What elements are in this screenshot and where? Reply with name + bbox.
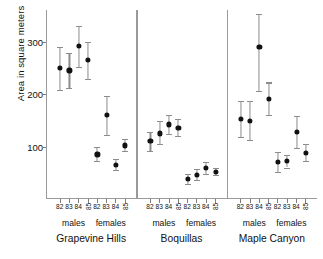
y-tick-label: 300 xyxy=(27,36,43,47)
error-bar-cap-lower xyxy=(256,91,262,92)
y-tick-mark xyxy=(42,147,46,148)
y-axis-title: Area in square meters xyxy=(15,0,26,134)
error-bar-cap-lower xyxy=(57,90,63,91)
error-bar-cap-upper xyxy=(294,116,300,117)
group-label-females: females xyxy=(276,218,306,228)
error-bar-cap-upper xyxy=(85,42,91,43)
data-point-with-error-bar xyxy=(305,10,306,199)
group-label-females: females xyxy=(186,218,216,228)
error-bar-cap-upper xyxy=(284,155,290,156)
error-bar-cap-lower xyxy=(94,161,100,162)
panel-label: Grapevine Hills xyxy=(56,233,126,244)
data-point-marker xyxy=(275,160,280,165)
x-tick-label: 83 xyxy=(65,203,72,210)
data-point-marker xyxy=(285,159,290,164)
data-point-with-error-bar xyxy=(287,10,288,199)
error-bar-cap-lower xyxy=(284,168,290,169)
data-point-with-error-bar xyxy=(178,10,179,199)
error-bar-cap-upper xyxy=(104,96,110,97)
error-bar-cap-lower xyxy=(194,180,200,181)
data-point-marker xyxy=(294,129,299,134)
error-bar-cap-lower xyxy=(238,137,244,138)
error-bar-cap-upper xyxy=(57,47,63,48)
data-point-with-error-bar xyxy=(60,10,61,199)
data-point-marker xyxy=(123,143,128,148)
x-tick-label: 83 xyxy=(156,203,163,210)
error-bar-cap-lower xyxy=(213,175,219,176)
x-tick-label: 85 xyxy=(121,203,128,210)
x-tick-label: 83 xyxy=(283,203,290,210)
y-tick-mark xyxy=(42,42,46,43)
error-bar-cap-lower xyxy=(66,88,72,89)
data-point-with-error-bar xyxy=(187,10,188,199)
error-bar-cap-lower xyxy=(175,136,181,137)
error-bar-cap-lower xyxy=(247,140,253,141)
data-point-marker xyxy=(76,43,81,48)
x-tick-label: 82 xyxy=(274,203,281,210)
error-bar-cap-lower xyxy=(294,148,300,149)
data-point-marker xyxy=(113,162,118,167)
error-bar-cap-lower xyxy=(185,184,191,185)
data-point-marker xyxy=(204,165,209,170)
error-bar-cap-lower xyxy=(157,144,163,145)
data-point-with-error-bar xyxy=(196,10,197,199)
error-bar-cap-upper xyxy=(175,119,181,120)
data-point-with-error-bar xyxy=(250,10,251,199)
data-point-with-error-bar xyxy=(97,10,98,199)
error-bar-cap-upper xyxy=(194,169,200,170)
error-bar-cap-lower xyxy=(122,151,128,152)
data-point-with-error-bar xyxy=(206,10,207,199)
error-bar-cap-upper xyxy=(266,82,272,83)
data-point-with-error-bar xyxy=(150,10,151,199)
error-bar-cap-lower xyxy=(166,134,172,135)
x-tick-label: 84 xyxy=(292,203,299,210)
error-bar-cap-lower xyxy=(76,67,82,68)
error-bar-cap-upper xyxy=(238,101,244,102)
data-point-with-error-bar xyxy=(125,10,126,199)
panel-label: Boquillas xyxy=(161,233,203,244)
x-tick-label: 84 xyxy=(75,203,82,210)
y-tick-label: 200 xyxy=(27,89,43,100)
x-tick-label: 84 xyxy=(255,203,262,210)
group-label-males: males xyxy=(243,218,266,228)
x-tick-label: 85 xyxy=(174,203,181,210)
data-point-marker xyxy=(157,131,162,136)
data-point-with-error-bar xyxy=(215,10,216,199)
error-bar-cap-lower xyxy=(303,161,309,162)
group-label-males: males xyxy=(62,218,85,228)
data-point-with-error-bar xyxy=(268,10,269,199)
data-point-marker xyxy=(176,125,181,130)
x-tick-label: 85 xyxy=(265,203,272,210)
error-bar-line xyxy=(259,14,260,91)
error-bar-cap-upper xyxy=(247,101,253,102)
plot-area: 10020030082838485males82838485femalesGra… xyxy=(46,10,317,199)
data-point-marker xyxy=(185,176,190,181)
x-tick-label: 83 xyxy=(246,203,253,210)
error-bar-cap-upper xyxy=(303,144,309,145)
error-bar-cap-upper xyxy=(275,152,281,153)
data-point-with-error-bar xyxy=(115,10,116,199)
data-point-marker xyxy=(67,68,72,73)
error-bar-cap-lower xyxy=(266,115,272,116)
error-bar-cap-upper xyxy=(66,53,72,54)
data-point-marker xyxy=(248,119,253,124)
x-tick-label: 85 xyxy=(302,203,309,210)
data-point-marker xyxy=(303,150,308,155)
data-point-with-error-bar xyxy=(240,10,241,199)
x-tick-label: 82 xyxy=(237,203,244,210)
x-tick-label: 82 xyxy=(93,203,100,210)
y-tick-mark xyxy=(42,94,46,95)
x-tick-label: 84 xyxy=(112,203,119,210)
x-tick-label: 85 xyxy=(84,203,91,210)
group-label-males: males xyxy=(152,218,175,228)
error-bar-cap-upper xyxy=(76,26,82,27)
panel-divider-0 xyxy=(46,10,47,199)
error-bar-cap-upper xyxy=(203,162,209,163)
data-point-marker xyxy=(213,169,218,174)
data-point-with-error-bar xyxy=(78,10,79,199)
data-point-marker xyxy=(58,65,63,70)
data-point-with-error-bar xyxy=(106,10,107,199)
error-bar-cap-lower xyxy=(203,174,209,175)
data-point-with-error-bar xyxy=(296,10,297,199)
panel-divider-2 xyxy=(227,10,228,199)
